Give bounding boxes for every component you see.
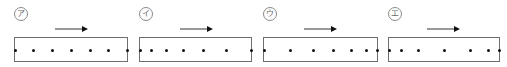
tape-dot xyxy=(14,49,17,52)
arrow-right-icon xyxy=(427,26,462,32)
tape-dot xyxy=(376,49,379,52)
panel-label: エ xyxy=(388,7,402,21)
tape-dot xyxy=(107,49,110,52)
tape-dot xyxy=(263,49,266,52)
tape-dot xyxy=(312,49,315,52)
tape-dot xyxy=(89,49,92,52)
tape-dot xyxy=(443,49,446,52)
arrow-right-icon xyxy=(180,26,215,32)
tape-dot xyxy=(417,49,420,52)
arrow-right-icon xyxy=(55,26,90,32)
tape-dot xyxy=(225,49,228,52)
tape-dot xyxy=(289,49,292,52)
tape-dot xyxy=(388,49,391,52)
ticker-tape xyxy=(14,37,128,62)
tape-dot xyxy=(400,49,403,52)
tape-dot xyxy=(139,49,142,52)
panel-label: ア xyxy=(14,7,28,21)
tape-dot xyxy=(365,49,368,52)
tape-dot xyxy=(182,49,185,52)
tape-dot xyxy=(150,49,153,52)
panel-label: イ xyxy=(139,7,153,21)
panel-label: ウ xyxy=(263,7,277,21)
tape-dot xyxy=(469,49,472,52)
tape-dot xyxy=(250,49,253,52)
tape-dot xyxy=(498,49,501,52)
tape-dot xyxy=(332,49,335,52)
tape-dot xyxy=(350,49,353,52)
tape-dot xyxy=(487,49,490,52)
tape-dot xyxy=(70,49,73,52)
ticker-tape xyxy=(139,37,252,62)
ticker-tape xyxy=(263,37,378,62)
arrow-right-icon xyxy=(304,26,339,32)
ticker-tape xyxy=(388,37,500,62)
tape-dot xyxy=(51,49,54,52)
tape-dot xyxy=(32,49,35,52)
tape-dot xyxy=(202,49,205,52)
tape-dot xyxy=(126,49,129,52)
tape-dot xyxy=(165,49,168,52)
